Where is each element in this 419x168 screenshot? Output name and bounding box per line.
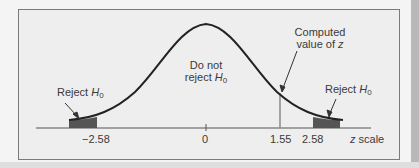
h-symbol: H <box>215 71 223 83</box>
h-subscript: 0 <box>223 76 227 85</box>
do-not-reject-label: Do not reject H0 <box>176 59 236 83</box>
z-scale-label: z scale <box>350 133 384 145</box>
do-not-text: Do not <box>176 59 236 71</box>
reject-left-label: Reject H0 <box>57 86 104 98</box>
reject-text: Reject <box>325 83 359 95</box>
z-symbol: z <box>338 38 344 50</box>
tick-label-neg-2-58: −2.58 <box>82 133 110 145</box>
h-symbol: H <box>91 86 99 98</box>
reject-right-label: Reject H0 <box>325 83 372 95</box>
reject-h0-line: reject H0 <box>176 71 236 83</box>
computed-text: Computed <box>290 26 350 38</box>
scale-text: scale <box>356 133 385 145</box>
h-subscript: 0 <box>367 88 371 97</box>
value-of-z-line: value of z <box>290 38 350 50</box>
arrow-reject-left <box>65 103 79 119</box>
arrow-computed <box>280 51 297 92</box>
value-of-text: value of <box>296 38 338 50</box>
tick-label-0: 0 <box>202 133 208 145</box>
computed-value-label: Computed value of z <box>290 26 350 50</box>
reject-text: Reject <box>57 86 91 98</box>
h-subscript: 0 <box>99 91 103 100</box>
tick-label-2-58: 2.58 <box>302 133 323 145</box>
h-symbol: H <box>359 83 367 95</box>
tick-label-1-55: 1.55 <box>270 133 291 145</box>
reject-text: reject <box>185 71 215 83</box>
arrow-reject-right <box>327 99 336 117</box>
